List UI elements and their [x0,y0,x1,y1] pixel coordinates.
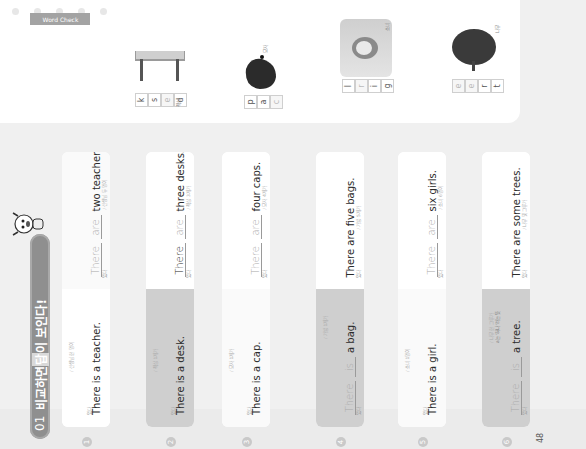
grammar-note: a는 '하나'라는 뜻 [494,311,500,343]
sentence-rest: a bag. [345,322,356,353]
exercise-card-2: / 책상 1개가 있다 There is a desk. There are t… [146,152,194,427]
label-itda: 있다 [437,270,443,278]
worksheet-page: 01 비교하면 답 이 보인다! / 선생님 한 명이 있다 There is … [0,0,586,449]
blank-verb[interactable]: is [344,357,356,377]
letter-box[interactable]: p [244,95,257,109]
letter-box-hint[interactable]: e [161,93,174,107]
sentence-rest: a tree. [511,320,522,353]
letter-boxes-cap: p a c [244,95,283,109]
fill-sentence: There are two teachers. [90,152,102,278]
number-badge-2: 2 [166,437,176,447]
card-3-given: / 모자 1개가 있다 There is a cap. [222,290,270,428]
card-6-given: There are some trees. / 나무 몇 그루가 있다 [482,152,530,290]
letter-boxes-girl: l r i g [342,79,394,93]
blank-verb[interactable]: are [90,216,102,240]
korean-meaning: 나무 [494,25,500,33]
fill-sentence: There are four caps. [250,162,262,278]
card-5-answer: There are six girls. / 소녀 6명이 있다 [398,152,446,290]
card-3-answer: There are four caps. / 모자 4개가 있다 [222,152,270,290]
letter-box[interactable]: g [381,79,394,93]
blank-verb[interactable]: is [510,357,522,377]
given-sentence: There is a cap. [251,342,262,415]
given-sentence: There is a girl. [427,344,438,416]
exercise-card-6: There is a tree. / 나무 한 그루가 a는 '하나'라는 뜻 … [482,152,530,427]
korean-meaning: 모자 [262,45,268,53]
gloss: / 선생님 한 명이 [68,342,74,372]
fill-sentence: There are three desks. [174,152,186,278]
gloss: / 모자 4개가 [261,186,267,209]
label-itda: 있다 [261,270,267,278]
fill-sentence: There is a tree. [510,320,522,415]
title-highlight: 답 [32,353,49,366]
letter-box[interactable]: l [342,79,355,93]
card-6-answer: There is a tree. / 나무 한 그루가 a는 '하나'라는 뜻 … [482,290,530,428]
gloss: / 선생님 두 명이 [101,180,107,210]
tree-image [448,25,500,75]
gloss: / 소녀 6명이 [437,186,443,209]
section-number: 01 [33,416,47,431]
gloss: / 소녀 1명이 [404,349,410,372]
gloss: / 나무 몇 그루가 [521,200,527,230]
title-text-post: 이 보인다! [32,299,49,353]
number-badge-3: 3 [242,437,252,447]
label-itda: 있다 [521,407,527,415]
label-itda: 있다 [355,407,361,415]
label-itda: 있다 [185,270,191,278]
letter-box-hint[interactable]: e [465,79,478,93]
given-sentence: There is a desk. [175,336,186,415]
gloss: / 가방 5개가 [355,206,361,229]
section-title: 01 비교하면 답 이 보인다! [30,234,50,439]
title-text-pre: 비교하면 [32,366,49,410]
blank-verb[interactable]: are [426,216,438,240]
card-4-given: There are five bags. / 가방 5개가 있다 [316,152,364,290]
letter-box-hint[interactable]: e [452,79,465,93]
blank-verb[interactable]: are [250,216,262,240]
letter-box[interactable]: i [368,79,381,93]
letter-box[interactable]: k [135,93,148,107]
gloss: / 모자 1개가 [228,349,234,372]
exercise-card-3: / 모자 1개가 있다 There is a cap. There are fo… [222,152,270,427]
exercise-card-5: / 소녀 1명이 있다 There is a girl. There are s… [398,152,446,427]
number-badge-6: 6 [502,437,512,447]
exercise-card-4: There is a bag. / 가방 1개가 있다 There are fi… [316,152,364,427]
cap-image [240,55,280,93]
card-2-given: / 책상 1개가 있다 There is a desk. [146,290,194,428]
card-5-given: / 소녀 1명이 있다 There is a girl. [398,290,446,428]
letter-box[interactable]: a [257,95,270,109]
letter-box[interactable]: s [148,93,161,107]
card-2-answer: There are three desks. / 책상 3개가 있다 [146,152,194,290]
desk-image [130,44,190,89]
label-itda: 있다 [355,270,361,278]
korean-meaning: 소녀 [384,23,390,31]
label-itda: 있다 [521,270,527,278]
word-check-items: k s e d 책상 p a c 모자 l r i g [0,0,520,123]
number-badge-1: 1 [82,437,92,447]
gloss: / 책상 1개가 [152,349,158,372]
card-1-answer: There are two teachers. / 선생님 두 명이 있다 [62,152,110,290]
letter-boxes-tree: e e r t [452,79,504,93]
viewport: 01 비교하면 답 이 보인다! / 선생님 한 명이 있다 There is … [0,0,586,449]
letter-box[interactable]: t [491,79,504,93]
gloss: / 책상 3개가 [185,186,191,209]
card-1-given: / 선생님 한 명이 있다 There is a teacher. [62,290,110,428]
letter-box-hint[interactable]: r [355,79,368,93]
fill-sentence: There is a bag. [344,322,356,415]
exercise-card-1: / 선생님 한 명이 있다 There is a teacher. There … [62,152,110,427]
letter-box-hint[interactable]: c [270,95,283,109]
letter-box[interactable]: r [478,79,491,93]
number-badge-4: 4 [336,437,346,447]
gloss: / 가방 1개가 [322,316,328,339]
korean-meaning: 책상 [175,99,181,107]
number-badge-5: 5 [418,437,428,447]
card-4-answer: There is a bag. / 가방 1개가 있다 [316,290,364,428]
label-itda: 있다 [101,270,107,278]
mascot-icon [12,211,46,237]
page-number: 48 [536,433,545,443]
blank-verb[interactable]: are [174,216,186,240]
given-sentence: There is a teacher. [91,322,102,415]
